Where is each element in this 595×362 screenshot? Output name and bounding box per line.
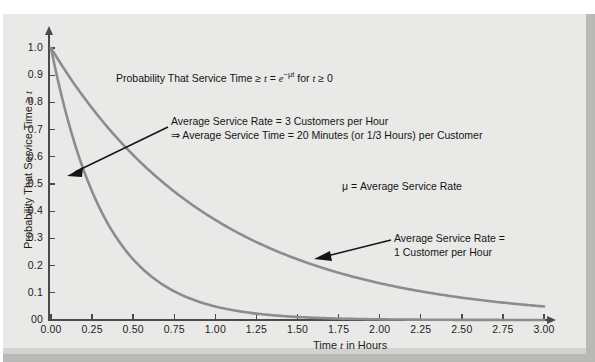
figure-shadow-bottom-inner	[3, 348, 586, 354]
plot-area: 000.10.20.30.40.50.60.70.80.91.0 0.000.2…	[3, 14, 586, 348]
callout-arrow-rate-1-icon	[3, 14, 586, 348]
figure-shadow-right	[586, 14, 595, 362]
chart-figure: 000.10.20.30.40.50.60.70.80.91.0 0.000.2…	[3, 14, 586, 348]
